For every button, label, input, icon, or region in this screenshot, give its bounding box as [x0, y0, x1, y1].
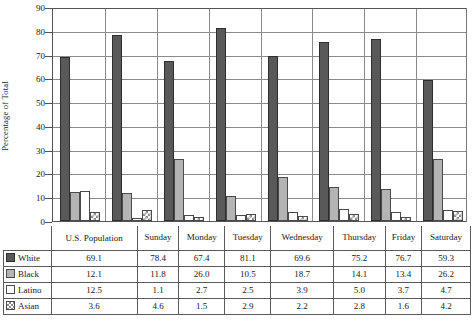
table-cell: 12.1: [51, 267, 137, 283]
bar-asian-friday: [401, 217, 411, 221]
legend-swatch-asian-icon: [6, 301, 15, 310]
legend-item-white: White: [4, 251, 52, 267]
table-cell: 2.2: [271, 299, 334, 315]
table-header-u-s-population: U.S. Population: [51, 226, 137, 251]
table-cell: 2.5: [225, 283, 271, 299]
bar-black-thursday: [329, 187, 339, 221]
bar-white-sunday: [112, 35, 122, 221]
bar-asian-tuesday: [246, 214, 256, 221]
table-header-wednesday: Wednesday: [271, 226, 334, 251]
bar-black-friday: [381, 189, 391, 221]
table-cell: 69.1: [51, 251, 137, 267]
table-header-row: U.S. PopulationSundayMondayTuesdayWednes…: [4, 226, 471, 251]
table-cell: 1.5: [179, 299, 225, 315]
y-axis-tick-label: 70: [36, 51, 45, 60]
y-axis-tick-mark: [45, 127, 52, 128]
table-cell: 2.7: [179, 283, 225, 299]
legend-swatch-black-icon: [6, 269, 15, 278]
bar-asian-wednesday: [298, 216, 308, 221]
table-cell: 67.4: [179, 251, 225, 267]
legend-swatch-white-icon: [6, 253, 15, 262]
table-cell: 4.7: [422, 283, 471, 299]
table-cell: 11.8: [137, 267, 178, 283]
bar-group: [364, 8, 416, 221]
table-header-monday: Monday: [179, 226, 225, 251]
bar-white-tuesday: [216, 28, 226, 221]
table-row: Latino12.51.12.72.53.95.03.74.7: [4, 283, 471, 299]
table-cell: 4.6: [137, 299, 178, 315]
bar-latino-sunday: [132, 218, 142, 221]
y-axis-tick-label: 90: [36, 4, 45, 13]
y-axis-tick-mark: [45, 56, 52, 57]
bar-group-bars: [53, 8, 105, 221]
bar-asian-thursday: [349, 214, 359, 221]
y-axis-tick-label: 60: [36, 75, 45, 84]
bar-white-wednesday: [268, 56, 278, 221]
legend-label: Asian: [18, 301, 39, 311]
bar-latino-u-s-population: [80, 191, 90, 221]
table-cell: 75.2: [333, 251, 385, 267]
plot-area: [52, 8, 467, 222]
bar-white-saturday: [423, 80, 433, 221]
table-cell: 13.4: [385, 267, 421, 283]
bar-latino-saturday: [443, 210, 453, 221]
legend-label: Latino: [18, 285, 42, 295]
data-table: U.S. PopulationSundayMondayTuesdayWednes…: [3, 226, 471, 315]
y-axis-tick-mark: [45, 8, 52, 9]
table-corner-cell: [4, 226, 52, 251]
chart-page: Percentage of Total 0102030405060708090 …: [0, 0, 474, 321]
bar-black-wednesday: [278, 177, 288, 221]
y-axis-tick-mark: [45, 32, 52, 33]
table-cell: 59.3: [422, 251, 471, 267]
bar-latino-wednesday: [288, 212, 298, 221]
table-body: White69.178.467.481.169.675.276.759.3Bla…: [4, 251, 471, 315]
bar-latino-monday: [184, 215, 194, 221]
bar-group: [209, 8, 261, 221]
bar-group: [105, 8, 157, 221]
table-cell: 10.5: [225, 267, 271, 283]
table-cell: 26.0: [179, 267, 225, 283]
legend-label: Black: [18, 269, 39, 279]
bar-group: [53, 8, 105, 221]
bar-group-bars: [261, 8, 313, 221]
table-cell: 1.1: [137, 283, 178, 299]
y-axis-ticks: 0102030405060708090: [14, 0, 52, 226]
bar-group-bars: [209, 8, 261, 221]
bar-group: [261, 8, 313, 221]
table-cell: 18.7: [271, 267, 334, 283]
table-row: Asian3.64.61.52.92.22.81.64.2: [4, 299, 471, 315]
bar-group: [312, 8, 364, 221]
table-cell: 3.9: [271, 283, 334, 299]
y-axis-tick-mark: [45, 79, 52, 80]
bar-group: [157, 8, 209, 221]
table-cell: 3.6: [51, 299, 137, 315]
y-axis-title-text: Percentage of Total: [0, 56, 10, 176]
table-cell: 2.8: [333, 299, 385, 315]
table-cell: 2.9: [225, 299, 271, 315]
bar-chart: Percentage of Total 0102030405060708090: [0, 0, 474, 226]
y-axis-tick-label: 30: [36, 146, 45, 155]
plot-right-border: [466, 8, 467, 222]
legend-item-latino: Latino: [4, 283, 52, 299]
bar-white-monday: [164, 61, 174, 221]
table-cell: 76.7: [385, 251, 421, 267]
bar-white-friday: [371, 39, 381, 221]
bar-group-bars: [312, 8, 364, 221]
legend-item-asian: Asian: [4, 299, 52, 315]
bar-group: [416, 8, 468, 221]
table-cell: 81.1: [225, 251, 271, 267]
bar-latino-thursday: [339, 209, 349, 221]
legend-item-black: Black: [4, 267, 52, 283]
y-axis-tick-label: 20: [36, 170, 45, 179]
table-header-tuesday: Tuesday: [225, 226, 271, 251]
table-cell: 3.7: [385, 283, 421, 299]
y-axis-tick-label: 80: [36, 27, 45, 36]
table-cell: 26.2: [422, 267, 471, 283]
table-cell: 1.6: [385, 299, 421, 315]
bar-latino-tuesday: [236, 215, 246, 221]
y-axis-tick-mark: [45, 151, 52, 152]
y-axis-tick-mark: [45, 198, 52, 199]
y-axis-tick-label: 40: [36, 122, 45, 131]
y-axis-tick-mark: [45, 174, 52, 175]
bar-black-monday: [174, 159, 184, 221]
